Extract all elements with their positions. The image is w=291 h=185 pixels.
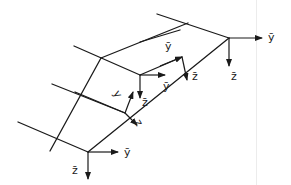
axis-label: z̄: [231, 70, 237, 83]
beam-line-4: [18, 122, 88, 152]
grid-lines: [18, 14, 229, 152]
axis-arrow-icon: [125, 92, 133, 113]
axis-label: ȳ: [165, 40, 172, 53]
axis-label: z̄: [142, 96, 148, 109]
triad-bottom: ȳz̄: [72, 146, 131, 179]
coordinate-triads: ȳz̄ȳz̄ȳz̄yzȳz̄: [72, 31, 275, 179]
beam-grid-diagram: ȳz̄ȳz̄ȳz̄yzȳz̄: [0, 0, 291, 185]
axis-label: ȳ: [268, 31, 275, 44]
rib-1: [140, 30, 180, 42]
triad-top-right: ȳz̄: [229, 31, 275, 83]
axis-arrow-icon: [182, 57, 187, 80]
axis-label: ȳ: [124, 146, 131, 159]
axis-label: z: [131, 117, 145, 129]
girder-left: [50, 58, 101, 151]
axis-arrow-icon: [160, 57, 182, 66]
beam-line-2: [74, 46, 140, 75]
beam-line-1: [157, 14, 229, 38]
axis-label: y: [110, 88, 125, 101]
axis-label: ȳ: [163, 80, 170, 93]
triad-upper-mid: ȳz̄: [160, 40, 198, 83]
axis-label: z̄: [192, 70, 198, 83]
triad-middle: ȳz̄: [140, 75, 170, 109]
axis-label: z̄: [72, 164, 78, 177]
